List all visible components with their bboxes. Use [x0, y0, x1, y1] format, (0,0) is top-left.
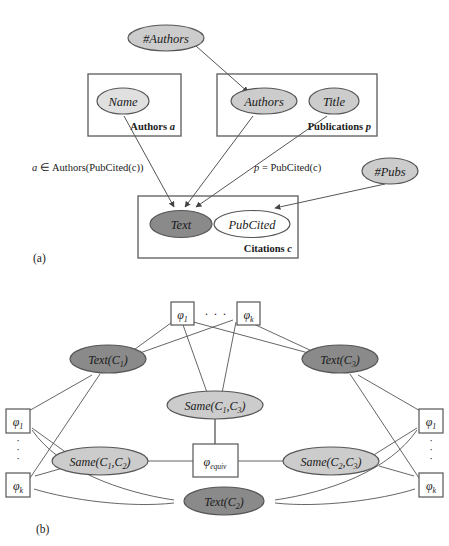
same-c1-c3-node[interactable]: Same(C1,C3) [167, 391, 263, 419]
factor-right-phi1[interactable]: φ1 [419, 409, 443, 433]
ellipsis-top: · · · [205, 307, 228, 321]
title-label: Title [323, 95, 346, 109]
authors-label: Authors [243, 95, 284, 109]
title-node[interactable]: Title [309, 88, 359, 114]
publications-plate-label: Publications p [308, 121, 371, 132]
panel-a-edges [124, 46, 385, 224]
same-c1-c2-label: Same(C1,C2) [69, 455, 130, 471]
same-c1-c3-label: Same(C1,C3) [184, 399, 245, 415]
same-c2-c3-label: Same(C2,C3) [300, 455, 361, 471]
name-node[interactable]: Name [97, 88, 149, 114]
authors-node[interactable]: Authors [231, 88, 297, 114]
text-c1-node[interactable]: Text(C1) [70, 345, 146, 373]
name-label: Name [107, 95, 138, 109]
ellipsis-left-3: · [16, 452, 20, 464]
text-c3-node[interactable]: Text(C3) [302, 345, 378, 373]
num-authors-label: #Authors [143, 32, 189, 46]
pubcited-equality-label: p = PubCited(c) [253, 162, 322, 174]
text-label: Text [171, 218, 192, 232]
factor-left-phik[interactable]: φk [6, 473, 30, 497]
edge-rightphi1-samec2c3 [372, 428, 417, 456]
same-c1-c2-node[interactable]: Same(C1,C2) [52, 447, 148, 475]
num-authors-node[interactable]: #Authors [128, 25, 204, 51]
edge-rightphi1-textc3 [358, 375, 422, 412]
panel-a-caption: (a) [33, 252, 46, 265]
factor-right-phik[interactable]: φk [419, 473, 443, 497]
text-node[interactable]: Text [150, 211, 212, 238]
factor-top-phi1[interactable]: φ1 [171, 302, 194, 325]
edge-numauthors-to-authors [196, 46, 248, 92]
citations-plate-label: Citations c [244, 243, 292, 254]
text-c2-node[interactable]: Text(C2) [184, 487, 264, 515]
figure-container: #Authors Name Authors Title #Pubs Text [0, 0, 449, 546]
authors-plate-label: Authors a [130, 121, 175, 132]
panel-b-caption: (b) [36, 523, 50, 536]
factor-equiv[interactable]: φequiv [193, 444, 238, 477]
edge-leftphi1-textc1 [27, 375, 92, 412]
panel-a: #Authors Name Authors Title #Pubs Text [32, 25, 418, 265]
factor-left-phi1[interactable]: φ1 [6, 409, 30, 433]
num-pubs-node[interactable]: #Pubs [362, 158, 418, 184]
factor-top-phik[interactable]: φk [237, 302, 260, 325]
num-pubs-label: #Pubs [374, 165, 405, 179]
edge-leftphik-textc2 [34, 489, 174, 505]
same-c2-c3-node[interactable]: Same(C2,C3) [283, 447, 379, 475]
figure-svg: #Authors Name Authors Title #Pubs Text [0, 0, 449, 546]
authors-membership-label: a ∈ Authors(PubCited(c)) [32, 162, 144, 174]
pubcited-node[interactable]: PubCited [214, 211, 290, 238]
panel-b: φ1 · · · φk φ1 · · · φk φ1 · · · φk [6, 302, 443, 536]
ellipsis-right-3: · [429, 452, 433, 464]
edge-topphik-samec1c3 [221, 322, 236, 398]
pubcited-label: PubCited [227, 218, 276, 232]
edge-authors-to-text [185, 116, 253, 207]
edge-rightphik-samec2c3 [379, 466, 414, 476]
